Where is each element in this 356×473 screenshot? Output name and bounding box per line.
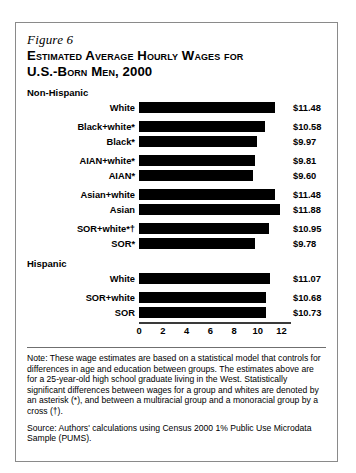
axis-tick-label: 12 [276,325,286,336]
bar-category-label: AIAN+white* [27,156,139,166]
bar-track [139,102,291,113]
bar-value-label: $11.07 [291,274,321,284]
figure-footnotes: Note: These wage estimates are based on … [27,347,326,444]
note-paragraph: Note: These wage estimates are based on … [27,353,326,417]
bar-fill [139,102,275,113]
bar-fill [139,121,265,132]
bar-fill [139,273,270,284]
axis-tick-label: 2 [160,325,165,336]
bar-track [139,292,291,303]
axis-tick-label: 4 [184,325,189,336]
bar-value-label: $11.88 [291,205,321,215]
bar-value-label: $11.48 [291,103,321,113]
bar-value-label: $9.78 [291,239,316,249]
source-paragraph: Source: Authors' calculations using Cens… [27,423,326,444]
bar-value-label: $9.97 [291,137,316,147]
bar-track [139,189,291,200]
bar-value-label: $11.48 [291,190,321,200]
bar-category-label: Black* [27,137,139,147]
bar-category-label: SOR* [27,239,139,249]
figure-number: Figure 6 [27,32,326,47]
bar-row: Asian+white$11.48 [27,188,326,201]
bar-category-label: Asian+white [27,190,139,200]
bar-category-label: AIAN* [27,171,139,181]
bar-chart-hispanic: White$11.07SOR+white$10.68SOR$10.73 [27,272,326,319]
bar-category-label: SOR+white [27,293,139,303]
bar-row: SOR+white$10.68 [27,291,326,304]
bar-fill [139,238,255,249]
bar-track [139,238,291,249]
bar-category-label: Asian [27,205,139,215]
bar-category-label: White [27,274,139,284]
bar-row: AIAN+white*$9.81 [27,154,326,167]
axis-tick-label: 10 [253,325,263,336]
bar-track [139,223,291,234]
bar-track [139,170,291,181]
bar-fill [139,189,275,200]
bar-value-label: $10.58 [291,122,321,132]
bar-track [139,307,291,318]
axis-tick-label: 6 [208,325,213,336]
bar-fill [139,204,280,215]
bar-track [139,155,291,166]
bar-chart-non-hispanic: White$11.48Black+white*$10.58Black*$9.97… [27,101,326,250]
bar-row: AIAN*$9.60 [27,169,326,182]
figure-title: Estimated Average Hourly Wages for U.S.-… [27,48,326,79]
bar-track [139,204,291,215]
bar-fill [139,292,266,303]
bar-category-label: SOR [27,308,139,318]
bar-value-label: $10.73 [291,308,321,318]
section-header-non-hispanic: Non-Hispanic [27,87,326,98]
bar-fill [139,170,253,181]
bar-value-label: $10.95 [291,224,321,234]
bar-row: SOR$10.73 [27,306,326,319]
axis-tick-label: 8 [231,325,236,336]
bar-row: SOR+white*†$10.95 [27,222,326,235]
figure-panel: Figure 6 Estimated Average Hourly Wages … [15,22,338,462]
bar-track [139,121,291,132]
bar-category-label: Black+white* [27,122,139,132]
bar-row: Asian$11.88 [27,203,326,216]
bar-fill [139,136,257,147]
bar-fill [139,155,255,166]
bar-row: White$11.07 [27,272,326,285]
x-axis: 024681012 [139,321,291,337]
bar-row: SOR*$9.78 [27,237,326,250]
bar-fill [139,307,266,318]
bar-track [139,136,291,147]
bar-category-label: SOR+white*† [27,224,139,234]
bar-track [139,273,291,284]
bar-row: White$11.48 [27,101,326,114]
bar-value-label: $9.81 [291,156,316,166]
bar-value-label: $10.68 [291,293,321,303]
axis-line [139,322,291,324]
bar-category-label: White [27,103,139,113]
section-header-hispanic: Hispanic [27,258,326,269]
bar-fill [139,223,269,234]
bar-value-label: $9.60 [291,171,316,181]
axis-tick-label: 0 [136,325,141,336]
bar-row: Black*$9.97 [27,135,326,148]
bar-row: Black+white*$10.58 [27,120,326,133]
